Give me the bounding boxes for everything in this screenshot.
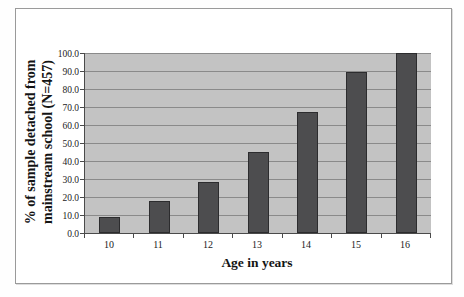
- y-tick-label-0.0: 0.0: [28, 229, 79, 239]
- x-tick-mark: [282, 234, 283, 238]
- gridline-60: [85, 125, 431, 126]
- x-tick-label-13: 13: [237, 239, 277, 250]
- x-tick-mark: [84, 234, 85, 238]
- y-tick-mark: [80, 125, 84, 126]
- y-axis-title: % of sample detached from mainstream sch…: [22, 60, 56, 225]
- y-tick-mark: [80, 71, 84, 72]
- bar-age-10: [99, 217, 120, 233]
- y-tick-label-100.0: 100.0: [28, 49, 79, 59]
- x-tick-label-11: 11: [138, 239, 178, 250]
- gridline-100: [85, 53, 431, 54]
- bar-age-11: [149, 201, 170, 233]
- bar-age-12: [198, 182, 219, 233]
- y-tick-mark: [80, 161, 84, 162]
- bar-age-16: [396, 53, 417, 233]
- y-tick-mark: [80, 107, 84, 108]
- x-tick-label-12: 12: [188, 239, 228, 250]
- gridline-50: [85, 143, 431, 144]
- y-tick-mark: [80, 89, 84, 90]
- y-tick-mark: [80, 215, 84, 216]
- x-tick-mark: [183, 234, 184, 238]
- bar-age-14: [297, 112, 318, 233]
- x-tick-mark: [331, 234, 332, 238]
- y-axis-title-line-2: mainstream school (N=457): [39, 60, 56, 225]
- x-axis-title: Age in years: [84, 255, 430, 271]
- y-tick-mark: [80, 53, 84, 54]
- bar-age-15: [346, 72, 367, 233]
- gridline-80: [85, 89, 431, 90]
- x-tick-mark: [381, 234, 382, 238]
- x-tick-mark: [232, 234, 233, 238]
- bar-age-13: [248, 152, 269, 233]
- chart-figure: 0.010.020.030.040.050.060.070.080.090.01…: [0, 0, 464, 297]
- plot-area: [84, 53, 431, 234]
- y-tick-mark: [80, 179, 84, 180]
- y-tick-mark: [80, 197, 84, 198]
- gridline-70: [85, 107, 431, 108]
- y-tick-mark: [80, 143, 84, 144]
- y-axis-title-line-1: % of sample detached from: [22, 60, 39, 225]
- x-tick-label-16: 16: [385, 239, 425, 250]
- gridline-90: [85, 71, 431, 72]
- x-tick-mark: [133, 234, 134, 238]
- x-tick-label-14: 14: [286, 239, 326, 250]
- x-tick-label-10: 10: [89, 239, 129, 250]
- x-tick-label-15: 15: [336, 239, 376, 250]
- x-tick-mark: [430, 234, 431, 238]
